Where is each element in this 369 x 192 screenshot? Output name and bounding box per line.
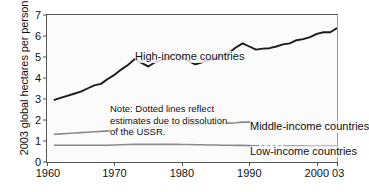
x-tick-label: 1960 bbox=[36, 168, 60, 179]
y-tick-mark bbox=[43, 36, 47, 37]
x-tick-label: 1990 bbox=[237, 168, 261, 179]
y-tick-label: 4 bbox=[35, 73, 41, 84]
note-annotation: Note: Dotted lines reflect estimates due… bbox=[110, 103, 227, 138]
y-tick-mark bbox=[43, 57, 47, 58]
x-tick-mark bbox=[182, 162, 183, 166]
note-line-3: of the USSR. bbox=[110, 126, 227, 138]
y-tick-mark bbox=[43, 99, 47, 100]
note-line-1: Note: Dotted lines reflect bbox=[110, 103, 227, 115]
y-tick-label: 2 bbox=[35, 115, 41, 126]
y-tick-label: 0 bbox=[35, 157, 41, 168]
x-tick-mark bbox=[47, 162, 48, 166]
series-label-high-income: High-income countries bbox=[135, 51, 244, 63]
x-tick-label: 1980 bbox=[170, 168, 194, 179]
y-tick-mark bbox=[43, 78, 47, 79]
plot-area: High-income countries Middle-income coun… bbox=[46, 14, 338, 163]
x-tick-mark bbox=[317, 162, 318, 166]
y-tick-label: 6 bbox=[35, 31, 41, 42]
series-label-middle-income: Middle-income countries bbox=[250, 121, 369, 133]
series-canvas bbox=[47, 15, 337, 162]
x-tick-mark bbox=[249, 162, 250, 166]
x-tick-mark bbox=[114, 162, 115, 166]
series-line bbox=[54, 144, 256, 145]
x-tick-label: 2000 bbox=[305, 168, 329, 179]
x-tick-mark bbox=[337, 162, 338, 166]
series-line bbox=[54, 28, 337, 100]
y-tick-mark bbox=[43, 141, 47, 142]
y-tick-mark bbox=[43, 120, 47, 121]
y-axis-title: 2003 global hectares per person bbox=[18, 0, 30, 163]
y-tick-label: 3 bbox=[35, 94, 41, 105]
y-tick-label: 1 bbox=[35, 136, 41, 147]
y-tick-label: 5 bbox=[35, 52, 41, 63]
series-label-low-income: Low-income countries bbox=[250, 146, 357, 158]
x-tick-label: 1970 bbox=[102, 168, 126, 179]
note-line-2: estimates due to dissolution bbox=[110, 115, 227, 127]
x-tick-label: 03 bbox=[332, 168, 344, 179]
y-tick-label: 7 bbox=[35, 10, 41, 21]
y-tick-mark bbox=[43, 15, 47, 16]
